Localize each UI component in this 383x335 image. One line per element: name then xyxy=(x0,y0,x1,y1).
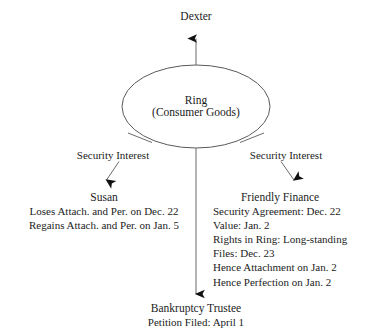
node-bankruptcy-trustee-label: Bankruptcy Trustee xyxy=(148,302,244,315)
bankruptcy-trustee-detail-line: Petition Filed: April 1 xyxy=(148,315,244,329)
edge-label-right-text: Security Interest xyxy=(250,149,322,161)
edge-ring-to-friendly-finance-arrow xyxy=(281,162,294,181)
node-susan-label: Susan xyxy=(29,191,179,204)
edge-label-left-text: Security Interest xyxy=(77,149,149,161)
friendly-finance-detail-line: Hence Attachment on Jan. 2 xyxy=(213,260,347,274)
node-susan: Susan Loses Attach. and Per. on Dec. 22 … xyxy=(29,191,179,232)
node-ring-label: Ring xyxy=(152,94,240,106)
friendly-finance-detail-line: Hence Perfection on Jan. 2 xyxy=(213,275,347,289)
diagram-canvas: Dexter Ring (Consumer Goods) Security In… xyxy=(0,0,383,335)
node-dexter-label: Dexter xyxy=(180,10,211,22)
edge-label-left-security-interest: Security Interest xyxy=(77,149,149,162)
edge-ring-to-susan-arrow xyxy=(107,162,120,181)
friendly-finance-detail-line: Security Agreement: Dec. 22 xyxy=(213,204,347,218)
susan-detail-line: Regains Attach. and Per. on Jan. 5 xyxy=(29,218,179,232)
friendly-finance-detail-line: Files: Dec. 23 xyxy=(213,246,347,260)
node-bankruptcy-trustee: Bankruptcy Trustee Petition Filed: April… xyxy=(148,302,244,329)
friendly-finance-detail-line: Value: Jan. 2 xyxy=(213,218,347,232)
node-ring-sublabel: (Consumer Goods) xyxy=(152,106,240,118)
node-dexter: Dexter xyxy=(180,10,211,23)
node-friendly-finance: Friendly Finance Security Agreement: Dec… xyxy=(213,191,347,289)
node-friendly-finance-label: Friendly Finance xyxy=(213,191,347,204)
edge-label-right-security-interest: Security Interest xyxy=(250,149,322,162)
friendly-finance-detail-line: Rights in Ring: Long-standing xyxy=(213,232,347,246)
node-ring: Ring (Consumer Goods) xyxy=(152,94,240,118)
susan-detail-line: Loses Attach. and Per. on Dec. 22 xyxy=(29,204,179,218)
